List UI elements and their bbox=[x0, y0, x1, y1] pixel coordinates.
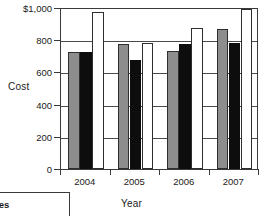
x-tickmark bbox=[60, 169, 61, 175]
bar-2004-series-gray bbox=[68, 52, 80, 169]
plot-area bbox=[60, 8, 258, 169]
y-tickmark bbox=[54, 105, 60, 106]
y-tick-label: 0 bbox=[47, 164, 52, 175]
bar-2005-series-black bbox=[130, 60, 142, 169]
bar-2007-series-white bbox=[241, 9, 253, 169]
legend-box bbox=[0, 192, 70, 216]
y-tickmark bbox=[54, 40, 60, 41]
y-tickmark bbox=[54, 137, 60, 138]
bar-2004-series-white bbox=[92, 12, 104, 169]
bar-2005-series-gray bbox=[118, 44, 130, 169]
x-tickmark bbox=[110, 169, 111, 175]
x-tickmark bbox=[258, 169, 259, 175]
y-tick-label: $1,000 bbox=[23, 3, 52, 14]
y-tick-label: 600 bbox=[36, 67, 52, 78]
x-tick-label: 2005 bbox=[124, 176, 145, 187]
x-tick-label: 2007 bbox=[223, 176, 244, 187]
bar-group-2004 bbox=[68, 8, 104, 169]
x-tick-label: 2004 bbox=[74, 176, 95, 187]
bar-group-2006 bbox=[167, 8, 203, 169]
y-tick-label: 800 bbox=[36, 35, 52, 46]
bar-2005-series-white bbox=[142, 43, 154, 169]
y-tick-label: 200 bbox=[36, 131, 52, 142]
y-axis-tick-labels: 0200400600800$1,000 bbox=[0, 0, 58, 216]
legend-label: les bbox=[0, 199, 9, 210]
y-tickmark bbox=[54, 72, 60, 73]
bar-2006-series-gray bbox=[167, 51, 179, 169]
bar-2004-series-black bbox=[80, 52, 92, 169]
bar-2006-series-black bbox=[179, 44, 191, 169]
bar-2006-series-white bbox=[191, 28, 203, 169]
bar-group-2007 bbox=[217, 8, 253, 169]
x-tick-label: 2006 bbox=[173, 176, 194, 187]
bar-2007-series-black bbox=[229, 43, 241, 169]
y-tick-label: 400 bbox=[36, 99, 52, 110]
x-tickmark bbox=[159, 169, 160, 175]
bar-2007-series-gray bbox=[217, 29, 229, 169]
bar-group-2005 bbox=[118, 8, 154, 169]
x-tickmark bbox=[209, 169, 210, 175]
y-tickmark bbox=[54, 8, 60, 9]
bar-chart: Cost 0200400600800$1,000 200420052006200… bbox=[0, 0, 263, 216]
